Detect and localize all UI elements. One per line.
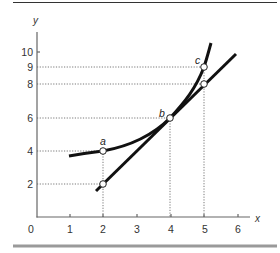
axes (37, 32, 251, 218)
y-tick-4: 4 (27, 145, 33, 157)
x-tick-2: 2 (100, 223, 106, 235)
point-5-8 (201, 81, 208, 88)
point-c-label: c (195, 54, 201, 66)
point-a (100, 148, 107, 155)
x-tick-3: 3 (134, 223, 140, 235)
y-tick-8: 8 (27, 78, 33, 90)
x-tick-labels: 0 1 2 3 4 5 6 (28, 223, 241, 235)
point-a-label: a (100, 135, 106, 147)
data-points (100, 64, 208, 188)
guide-lines (37, 67, 204, 217)
bottom-rule (13, 245, 277, 248)
point-c (201, 64, 208, 71)
x-tick-5: 5 (202, 223, 208, 235)
y-tick-labels: 10 9 8 6 4 2 (21, 46, 33, 190)
point-b (167, 115, 174, 122)
x-tick-4: 4 (168, 223, 174, 235)
y-tick-6: 6 (27, 112, 33, 124)
y-tick-2: 2 (27, 178, 33, 190)
origin-label: 0 (28, 223, 34, 235)
point-b-label: b (159, 107, 165, 119)
x-axis-title: x (254, 213, 261, 224)
point-2-2 (100, 181, 107, 188)
y-tick-10: 10 (21, 46, 33, 58)
y-tick-9: 9 (27, 61, 33, 73)
x-tick-6: 6 (235, 223, 241, 235)
chart: y x 10 9 8 6 4 2 0 1 2 3 4 5 6 a b c (0, 0, 280, 253)
x-tick-1: 1 (67, 223, 73, 235)
y-axis-title: y (32, 15, 39, 26)
